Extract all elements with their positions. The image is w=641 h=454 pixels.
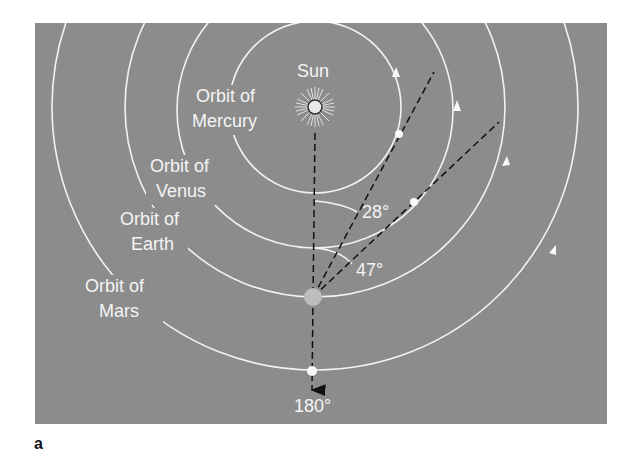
orbit-mercury-label-line1: Orbit of (196, 86, 256, 106)
venus-planet (410, 198, 418, 206)
orbit-mercury-label-line2: Mercury (192, 111, 257, 131)
sun-label: Sun (297, 61, 329, 81)
angle-label-mars: 180° (294, 396, 331, 416)
mars-planet (307, 366, 317, 376)
angle-label-mercury: 28° (362, 202, 389, 222)
orbit-venus-label-line2: Venus (156, 181, 206, 201)
elongation-diagram: Sun Orbit of Mercury Orbit of Venus Orbi… (0, 0, 641, 454)
sun-icon (308, 100, 322, 114)
orbit-mars-label-line1: Orbit of (85, 276, 145, 296)
orbit-earth-label-line1: Orbit of (120, 209, 180, 229)
orbit-venus-label-line1: Orbit of (150, 156, 210, 176)
panel-letter: a (34, 436, 43, 452)
mercury-planet (395, 130, 403, 138)
orbit-earth-label-line2: Earth (131, 234, 174, 254)
sightline-mars (312, 297, 313, 390)
angle-label-venus: 47° (356, 260, 383, 280)
earth-planet (304, 288, 322, 306)
orbit-mars-label-line2: Mars (99, 301, 139, 321)
